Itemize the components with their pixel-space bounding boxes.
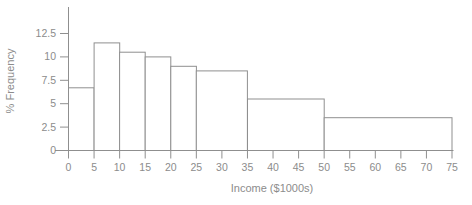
y-tick-label: 5: [50, 97, 56, 109]
histogram-chart: 05101520253035404550556065707502.557.510…: [0, 0, 472, 205]
histogram-bar: [248, 99, 325, 151]
y-tick-label: 12.5: [36, 27, 57, 39]
x-axis-label: Income ($1000s): [231, 182, 314, 194]
x-tick-label: 20: [165, 161, 177, 173]
histogram-bar: [171, 66, 197, 150]
x-tick-label: 30: [216, 161, 228, 173]
y-tick-label: 2.5: [41, 121, 56, 133]
histogram-bar: [196, 71, 247, 151]
x-tick-label: 15: [139, 161, 151, 173]
x-tick-label: 5: [91, 161, 97, 173]
x-tick-label: 35: [242, 161, 254, 173]
x-tick-label: 25: [190, 161, 202, 173]
histogram-bar: [69, 88, 95, 151]
y-tick-label: 0: [50, 144, 56, 156]
histogram-bar: [324, 118, 452, 151]
histogram-bar: [120, 52, 146, 150]
x-tick-label: 45: [293, 161, 305, 173]
x-tick-label: 40: [267, 161, 279, 173]
y-tick-label: 10: [44, 50, 56, 62]
y-axis-label: % Frequency: [4, 48, 16, 113]
histogram-figure: 05101520253035404550556065707502.557.510…: [0, 0, 472, 205]
x-tick-label: 65: [395, 161, 407, 173]
x-tick-label: 10: [114, 161, 126, 173]
x-tick-label: 75: [446, 161, 458, 173]
histogram-bar: [94, 43, 120, 151]
bars-layer: [69, 43, 453, 151]
x-tick-label: 60: [369, 161, 381, 173]
x-tick-label: 70: [421, 161, 433, 173]
histogram-bar: [145, 57, 171, 151]
y-tick-label: 7.5: [41, 74, 56, 86]
x-tick-label: 55: [344, 161, 356, 173]
x-tick-label: 50: [318, 161, 330, 173]
x-tick-label: 0: [66, 161, 72, 173]
